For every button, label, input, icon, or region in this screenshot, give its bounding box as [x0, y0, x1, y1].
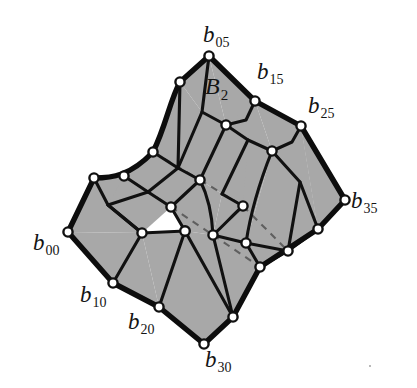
- label-b30: b30: [205, 348, 231, 371]
- control-point: [313, 224, 322, 233]
- label-b05-base: b: [203, 22, 215, 47]
- control-point-b15: [250, 96, 259, 105]
- label-b10: b10: [80, 283, 106, 306]
- control-point: [166, 202, 175, 211]
- label-b30-sub: 30: [218, 360, 232, 375]
- label-b25-base: b: [308, 93, 320, 118]
- image-speck: [369, 365, 371, 367]
- control-point: [267, 146, 276, 155]
- control-point: [255, 262, 264, 271]
- control-point: [89, 173, 98, 182]
- control-point: [241, 238, 250, 247]
- label-patch-base: B: [205, 73, 220, 99]
- control-point-b25: [296, 121, 305, 130]
- label-b10-base: b: [80, 282, 92, 307]
- label-b05-sub: 05: [216, 35, 230, 50]
- label-b25: b25: [308, 94, 334, 117]
- label-b10-sub: 10: [93, 295, 107, 310]
- label-b30-base: b: [205, 347, 217, 372]
- label-b20: b20: [128, 310, 154, 333]
- label-patch-b2: B2: [205, 74, 227, 98]
- label-b35-sub: 35: [364, 201, 378, 216]
- control-point-extraordinary: [180, 226, 190, 236]
- control-point: [228, 312, 237, 321]
- control-point: [175, 77, 184, 86]
- label-b00: b00: [33, 231, 59, 254]
- control-point-b00: [63, 227, 72, 236]
- label-b20-sub: 20: [141, 322, 155, 337]
- control-point: [148, 147, 157, 156]
- control-point: [154, 302, 163, 311]
- control-point: [283, 246, 292, 255]
- label-b25-sub: 25: [321, 106, 335, 121]
- control-point-b35: [340, 195, 349, 204]
- mesh-edge: [178, 82, 180, 168]
- label-b00-base: b: [33, 230, 45, 255]
- control-point-b10: [108, 278, 117, 287]
- control-point: [137, 228, 146, 237]
- label-b20-base: b: [128, 309, 140, 334]
- label-b05: b05: [203, 23, 229, 46]
- figure-root: b00 b10 b20 b30 b05 b15 b25 b35 B2: [0, 0, 417, 388]
- control-point: [195, 175, 204, 184]
- control-point: [119, 171, 128, 180]
- mesh-edge: [142, 231, 185, 233]
- control-point: [221, 120, 230, 129]
- label-patch-sub: 2: [221, 87, 229, 103]
- label-b35: b35: [351, 189, 377, 212]
- label-b00-sub: 00: [46, 243, 60, 258]
- label-b15-sub: 15: [270, 72, 284, 87]
- label-b15-base: b: [257, 59, 269, 84]
- control-point: [238, 201, 247, 210]
- label-b15: b15: [257, 60, 283, 83]
- control-point: [208, 230, 217, 239]
- control-point-b05: [204, 51, 213, 60]
- label-b35-base: b: [351, 188, 363, 213]
